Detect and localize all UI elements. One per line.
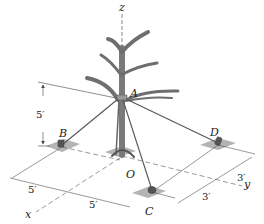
b-x-line (12, 147, 62, 178)
point-a-label: A (129, 87, 138, 100)
anchors (58, 137, 222, 194)
cable-ad (126, 99, 218, 143)
point-d-label: D (209, 126, 219, 139)
cable-collar (117, 95, 127, 100)
y-dim-label-1: 3′ (202, 191, 211, 202)
y-dim-label-2: 3′ (237, 172, 246, 183)
z-axis-label: z (118, 1, 125, 14)
x-axis-label: x (25, 208, 32, 221)
d-right-line (218, 145, 255, 154)
tree-cable-diagram: z (0, 0, 264, 224)
x-axis (36, 158, 120, 212)
cable-ab (62, 99, 118, 145)
height-dimension (38, 82, 116, 146)
anchor-b (58, 140, 64, 147)
height-label: 5′ (36, 109, 45, 120)
anchor-c (148, 187, 156, 194)
point-b-label: B (58, 127, 67, 140)
point-c-label: C (145, 205, 154, 218)
x-dim-label-2: 5′ (89, 199, 98, 210)
c-d-line (152, 145, 218, 192)
ground-patches (46, 138, 236, 198)
x-dim-label-1: 5′ (28, 184, 37, 195)
cables (62, 99, 218, 190)
origin-label: O (126, 168, 135, 181)
